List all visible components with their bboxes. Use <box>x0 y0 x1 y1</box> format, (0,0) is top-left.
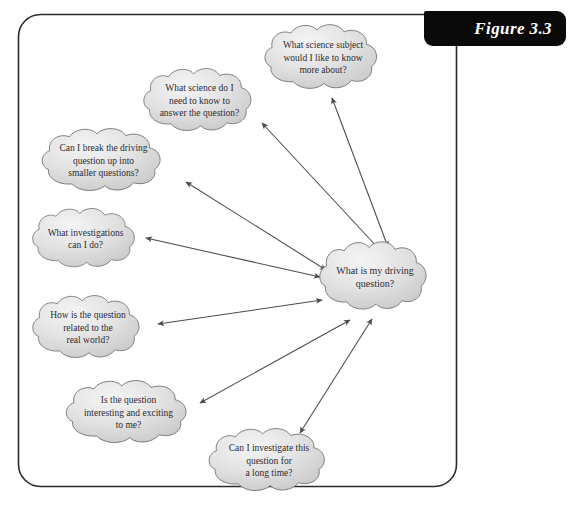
cloud-shape-icon <box>29 206 142 272</box>
connector-science-needed <box>262 123 379 249</box>
cloud-driving-question[interactable]: What is my driving question? <box>316 239 434 315</box>
cloud-shape-icon <box>261 22 385 94</box>
connector-interesting-exciting <box>200 320 350 403</box>
connector-break-into-smaller <box>186 182 326 270</box>
cloud-shape-icon <box>62 378 195 448</box>
cloud-real-world[interactable]: How is the question related to the real … <box>29 293 147 363</box>
cloud-shape-icon <box>316 239 434 315</box>
cloud-long-time[interactable]: Can I investigate this question for a lo… <box>205 426 333 496</box>
figure-number-label: Figure 3.3 <box>474 19 552 39</box>
cloud-shape-icon <box>29 293 147 363</box>
cloud-investigations[interactable]: What investigations can I do? <box>29 206 142 272</box>
figure-number-tab: Figure 3.3 <box>424 11 566 46</box>
figure-container: Figure 3.3 What science subject would I … <box>0 0 571 519</box>
connector-investigations <box>146 238 320 277</box>
page-text-sliver <box>18 510 348 519</box>
connector-real-world <box>158 300 322 324</box>
cloud-break-into-smaller[interactable]: Can I break the driving question up into… <box>38 126 169 196</box>
cloud-science-subject[interactable]: What science subject would I like to kno… <box>261 22 385 94</box>
connector-long-time <box>300 319 372 433</box>
connector-science-subject <box>332 98 388 247</box>
cloud-shape-icon <box>205 426 333 496</box>
cloud-shape-icon <box>38 126 169 196</box>
cloud-interesting-exciting[interactable]: Is the question interesting and exciting… <box>62 378 195 448</box>
